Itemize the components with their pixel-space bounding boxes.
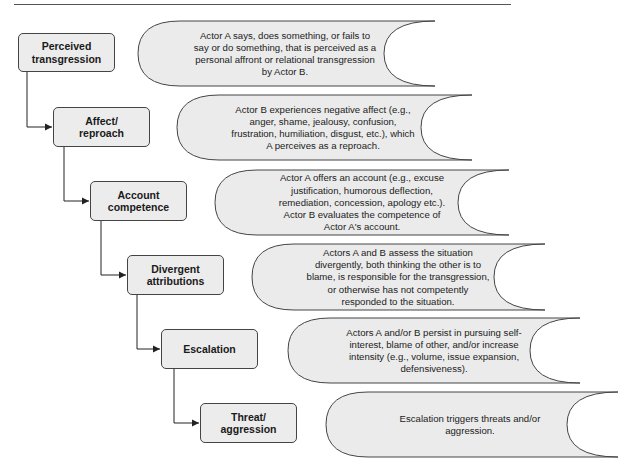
stage-label: aggression bbox=[220, 423, 276, 435]
stage-box-affect-reproach: Affect/reproach bbox=[53, 107, 150, 147]
connector-3-4 bbox=[101, 221, 126, 275]
stage-box-escalation: Escalation bbox=[161, 329, 258, 369]
stage-description-3: Actor A offers an account (e.g., excuse … bbox=[274, 171, 450, 235]
stage-label: Affect/ bbox=[85, 115, 118, 127]
stage-label: Threat/ bbox=[231, 411, 266, 423]
description-text: Escalation triggers threats and/or aggre… bbox=[395, 413, 545, 437]
stage-description-6: Escalation triggers threats and/or aggre… bbox=[395, 393, 545, 457]
stage-box-divergent-attributions: Divergentattributions bbox=[127, 255, 224, 295]
connector-4-5 bbox=[137, 295, 160, 349]
stage-box-threat-aggression: Threat/aggression bbox=[200, 403, 297, 443]
description-text: Actor A offers an account (e.g., excuse … bbox=[274, 172, 450, 233]
connector-1-2 bbox=[27, 72, 52, 127]
stage-box-account-competence: Accountcompetence bbox=[90, 181, 187, 221]
stage-label: Divergent bbox=[151, 263, 199, 275]
stage-box-perceived-transgression: Perceivedtransgression bbox=[18, 33, 115, 72]
connector-5-6 bbox=[174, 369, 199, 423]
connector-2-3 bbox=[64, 146, 89, 201]
stage-label: Account bbox=[118, 189, 160, 201]
stage-description-5: Actors A and/or B persist in pursuing se… bbox=[343, 319, 525, 383]
stage-label: competence bbox=[108, 201, 169, 213]
stage-description-2: Actor B experiences negative affect (e.g… bbox=[230, 96, 416, 160]
description-text: Actors A and B assess the situation dive… bbox=[305, 247, 491, 308]
stage-label: Escalation bbox=[183, 343, 236, 355]
stage-description-4: Actors A and B assess the situation dive… bbox=[305, 245, 491, 310]
stage-label: transgression bbox=[32, 53, 101, 65]
stage-label: attributions bbox=[147, 275, 205, 287]
stage-description-1: Actor A says, does something, or fails t… bbox=[192, 22, 378, 86]
description-text: Actor A says, does something, or fails t… bbox=[192, 30, 378, 79]
stage-label: reproach bbox=[79, 127, 124, 139]
description-text: Actors A and/or B persist in pursuing se… bbox=[343, 327, 525, 376]
stage-label: Perceived bbox=[42, 40, 92, 52]
description-text: Actor B experiences negative affect (e.g… bbox=[230, 104, 416, 153]
